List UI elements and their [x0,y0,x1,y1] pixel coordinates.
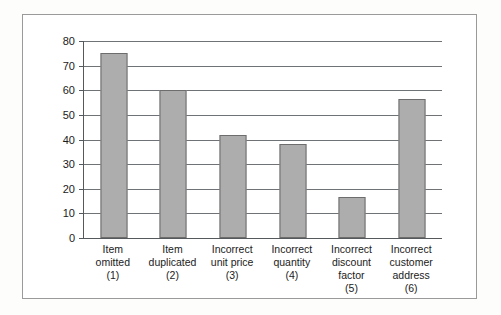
bar[interactable] [220,135,247,238]
x-axis-label: Incorrectdiscountfactor(5) [322,243,382,295]
bar[interactable] [339,197,366,238]
y-axis-tick-label: 70 [63,60,75,71]
x-axis-label-line: (5) [322,282,382,295]
x-axis-label-line: omitted [83,256,143,269]
x-axis-label-line: quantity [262,256,322,269]
x-axis-label: Incorrectunit price(3) [202,243,262,282]
x-axis-label: Incorrectquantity(4) [262,243,322,282]
x-axis-label: Itemduplicated(2) [143,243,203,282]
x-axis-label-line: (6) [381,282,441,295]
chart-figure: 80706050403020100 Itemomitted(1)Itemdupl… [22,14,477,299]
y-axis-tick-label: 20 [63,183,75,194]
bar[interactable] [399,99,426,238]
y-axis-tick-label: 30 [63,159,75,170]
bar-slot [323,41,383,238]
x-axis-label-line: (4) [262,269,322,282]
bar[interactable] [279,144,306,238]
x-axis-label-line: Incorrect [381,243,441,256]
x-axis-label-line: address [381,269,441,282]
plot-area: 80706050403020100 [83,41,442,239]
x-axis-label-line: customer [381,256,441,269]
x-axis-label-line: Incorrect [262,243,322,256]
bar-slot [203,41,263,238]
y-axis-tick-label: 40 [63,134,75,145]
x-axis-label-line: Incorrect [202,243,262,256]
bar-slot [144,41,204,238]
x-axis-labels-group: Itemomitted(1)Itemduplicated(2)Incorrect… [83,243,442,299]
y-axis-tick-label: 50 [63,109,75,120]
bar[interactable] [160,90,187,238]
x-axis-label-line: (3) [202,269,262,282]
bar-slot [84,41,144,238]
x-axis-label: Itemomitted(1) [83,243,143,282]
x-axis-label-line: unit price [202,256,262,269]
y-axis-tick [79,238,84,239]
x-axis-label-line: (2) [143,269,203,282]
bar-slot [382,41,442,238]
x-axis-label-line: Incorrect [322,243,382,256]
x-axis-label-line: (1) [83,269,143,282]
bar[interactable] [100,53,127,238]
y-axis-tick-label: 60 [63,85,75,96]
x-axis-label-line: duplicated [143,256,203,269]
bars-group [84,41,442,238]
x-axis-label-line: Item [83,243,143,256]
bar-slot [263,41,323,238]
x-axis-label-line: Item [143,243,203,256]
y-axis-tick-label: 10 [63,208,75,219]
y-axis-tick-label: 0 [69,233,75,244]
x-axis-label: Incorrectcustomeraddress(6) [381,243,441,295]
x-axis-label-line: discount [322,256,382,269]
x-axis-label-line: factor [322,269,382,282]
y-axis-tick-label: 80 [63,36,75,47]
